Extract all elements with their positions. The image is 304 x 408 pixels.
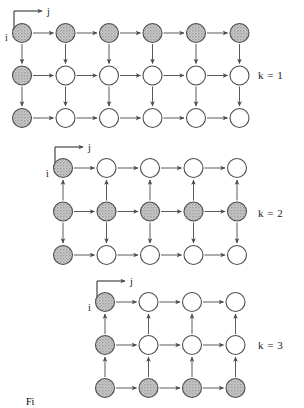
- panel-k1-node-r0-c1-shaded[interactable]: [56, 24, 75, 43]
- panel-k2-axis-j-label: j: [87, 142, 91, 153]
- panel-k1-node-r1-c2-empty[interactable]: [100, 66, 119, 85]
- panel-k1-node-r2-c2-empty[interactable]: [100, 109, 119, 128]
- panel-k2-node-r1-c0-shaded[interactable]: [54, 202, 73, 221]
- panel-k2-axis-i-label: i: [46, 168, 49, 179]
- panel-k1-node-r0-c0-shaded[interactable]: [13, 24, 32, 43]
- panel-k1-node-r1-c3-empty[interactable]: [143, 66, 162, 85]
- panel-k3-axis-j-label: j: [129, 276, 133, 287]
- panel-k1-node-r1-c5-empty[interactable]: [230, 66, 249, 85]
- panel-k1-node-r1-c1-empty[interactable]: [56, 66, 75, 85]
- panel-k3-node-r2-c2-shaded[interactable]: [183, 379, 202, 398]
- panel-k2-node-r1-c2-shaded[interactable]: [141, 202, 160, 221]
- panel-k3-node-r1-c0-shaded[interactable]: [96, 336, 115, 355]
- panel-k3-node-r1-c2-empty[interactable]: [183, 336, 202, 355]
- panel-k1-node-r1-c4-empty[interactable]: [187, 66, 206, 85]
- panel-k3-node-r0-c2-empty[interactable]: [183, 293, 202, 312]
- panel-k2-node-r0-c0-shaded[interactable]: [54, 159, 73, 178]
- panel-k1-node-r2-c0-shaded[interactable]: [13, 109, 32, 128]
- panel-k2: ji: [46, 142, 247, 265]
- panel-k2-k-label: k = 2: [258, 207, 283, 219]
- panel-k3-node-r0-c0-shaded[interactable]: [96, 293, 115, 312]
- panel-k2-node-r0-c4-empty[interactable]: [228, 159, 247, 178]
- panel-k1-node-r2-c3-empty[interactable]: [143, 109, 162, 128]
- panel-k2-node-r2-c3-empty[interactable]: [184, 246, 203, 265]
- labels-layer: k = 1k = 2k = 3: [258, 69, 283, 351]
- panel-k3-node-r1-c1-empty[interactable]: [139, 336, 158, 355]
- panel-k2-node-r2-c1-empty[interactable]: [97, 246, 116, 265]
- panel-k3-k-label: k = 3: [258, 339, 283, 351]
- panel-k1-edges: [22, 33, 240, 118]
- panel-k2-node-r0-c2-empty[interactable]: [141, 159, 160, 178]
- panel-k3-node-r2-c3-shaded[interactable]: [226, 379, 245, 398]
- panel-k1-node-r2-c1-empty[interactable]: [56, 109, 75, 128]
- panel-k3-node-r1-c3-empty[interactable]: [226, 336, 245, 355]
- panel-k1-k-label: k = 1: [258, 69, 283, 81]
- panel-k1-node-r2-c5-empty[interactable]: [230, 109, 249, 128]
- panel-k1-node-r2-c4-empty[interactable]: [187, 109, 206, 128]
- panel-k1-axis-j-label: j: [46, 6, 50, 17]
- figure-caption: Fi: [26, 396, 34, 407]
- panel-k1-node-r0-c4-shaded[interactable]: [187, 24, 206, 43]
- panel-k3-edges: [105, 302, 236, 388]
- panel-k1-node-r0-c2-shaded[interactable]: [100, 24, 119, 43]
- panel-k1-node-r1-c0-shaded[interactable]: [13, 66, 32, 85]
- panel-k1: ji: [5, 6, 249, 128]
- panel-k2-node-r0-c1-empty[interactable]: [97, 159, 116, 178]
- panel-k3-node-r0-c3-empty[interactable]: [226, 293, 245, 312]
- figure-canvas: jijiji k = 1k = 2k = 3 Fi: [0, 0, 304, 408]
- panel-k2-node-r2-c2-empty[interactable]: [141, 246, 160, 265]
- panel-k1-node-r0-c5-shaded[interactable]: [230, 24, 249, 43]
- panel-k2-node-r1-c3-shaded[interactable]: [184, 202, 203, 221]
- panel-k2-node-r2-c0-shaded[interactable]: [54, 246, 73, 265]
- panel-k3-node-r2-c0-shaded[interactable]: [96, 379, 115, 398]
- panel-k3: ji: [88, 276, 245, 398]
- panel-k3-node-r0-c1-empty[interactable]: [139, 293, 158, 312]
- panel-k3-axis-i-label: i: [88, 302, 91, 313]
- panel-k3-node-r2-c1-shaded[interactable]: [139, 379, 158, 398]
- panel-k2-node-r1-c4-shaded[interactable]: [228, 202, 247, 221]
- panel-k1-axis-i-label: i: [5, 32, 8, 43]
- panel-k2-node-r2-c4-empty[interactable]: [228, 246, 247, 265]
- panel-k1-node-r0-c3-shaded[interactable]: [143, 24, 162, 43]
- grid-diagram-svg: jijiji k = 1k = 2k = 3: [0, 0, 304, 408]
- panel-k2-node-r0-c3-empty[interactable]: [184, 159, 203, 178]
- panel-k2-node-r1-c1-shaded[interactable]: [97, 202, 116, 221]
- panels-layer: jijiji: [5, 6, 249, 398]
